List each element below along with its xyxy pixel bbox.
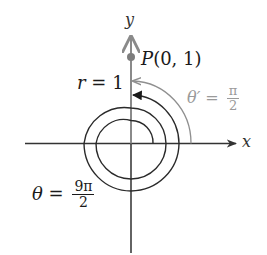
polar-angle-diagram: y x P(0, 1) r = 1 θ′ = π 2 θ = 9π 2	[0, 0, 267, 255]
point-p-label: P(0, 1)	[141, 50, 202, 68]
reference-angle-eq: =	[200, 90, 224, 106]
y-axis-label: y	[125, 12, 134, 28]
angle-denominator: 2	[77, 195, 90, 210]
point-p-marker	[127, 53, 135, 61]
reference-angle-arc	[133, 81, 191, 144]
angle-label: θ = 9π 2	[32, 179, 94, 209]
reference-angle-denominator: 2	[227, 99, 239, 113]
radius-eq: =	[86, 72, 113, 93]
radius-var: r	[77, 72, 86, 93]
diagram-canvas	[0, 0, 267, 255]
reference-angle-label: θ′ = π 2	[187, 84, 239, 112]
point-p-coords: (0, 1)	[153, 48, 201, 69]
angle-fraction: 9π 2	[72, 179, 94, 209]
reference-angle-numerator: π	[227, 84, 240, 99]
angle-numerator: 9π	[72, 179, 94, 195]
angle-var: θ	[32, 185, 43, 203]
x-axis-label: x	[242, 134, 251, 150]
point-p-name: P	[141, 48, 153, 69]
radius-value: 1	[112, 72, 123, 93]
reference-angle-fraction: π 2	[227, 84, 240, 112]
radius-label: r = 1	[77, 74, 124, 92]
reference-angle-var: θ′	[187, 90, 200, 106]
angle-eq: =	[43, 185, 70, 203]
